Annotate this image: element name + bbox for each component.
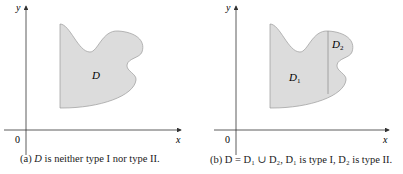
caption-a: (a) D is neither type I nor type II. — [20, 153, 160, 164]
caption-a-var: D — [34, 153, 42, 164]
panel-a: y x 0 D — [4, 2, 181, 155]
caption-a-rest: is neither type I nor type II. — [42, 153, 160, 164]
origin-b: 0 — [225, 134, 230, 145]
caption-a-prefix: (a) — [20, 153, 34, 164]
region-d — [60, 24, 143, 108]
region-d-label: D — [91, 69, 100, 81]
caption-b: (b) D = D₁ ∪ D₂, D₁ is type I, D₂ is typ… — [210, 153, 392, 165]
y-label-a: y — [15, 2, 21, 13]
x-label-b: x — [382, 134, 388, 145]
x-label-a: x — [175, 134, 181, 145]
panel-b: y x 0 D1 D2 — [214, 2, 389, 155]
y-label-b: y — [225, 2, 231, 13]
origin-a: 0 — [15, 134, 20, 145]
region-d-b — [270, 24, 353, 108]
diagram-canvas: y x 0 D y x 0 D1 D2 — [0, 0, 403, 174]
